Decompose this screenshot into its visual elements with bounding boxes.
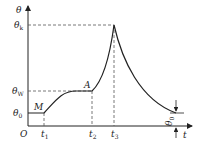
temperature-time-diagram: θ θk θW θ0 M A O t1 t2 t3 t θ0 (0, 0, 202, 144)
label-theta-w: θW (12, 86, 24, 97)
x-axis-label: t (183, 130, 187, 140)
label-M: M (33, 102, 44, 112)
origin-label: O (20, 129, 28, 139)
label-t2: t2 (89, 129, 97, 140)
label-A: A (83, 80, 91, 90)
temperature-curve (28, 25, 176, 113)
label-theta-0: θ0 (13, 108, 22, 119)
label-t1: t1 (41, 129, 48, 140)
y-axis-label: θ (16, 5, 22, 15)
label-t3: t3 (111, 129, 119, 140)
label-theta0-end: θ0 (164, 117, 175, 126)
label-theta-k: θk (14, 20, 23, 31)
